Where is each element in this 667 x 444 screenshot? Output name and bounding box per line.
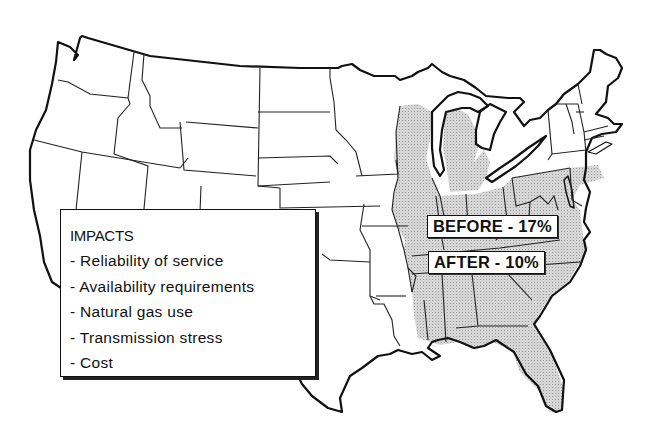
impact-item-reliability: - Reliability of service — [70, 248, 315, 274]
impact-item-cost: - Cost — [70, 350, 315, 376]
impacts-legend-box: IMPACTS - Reliability of service - Avail… — [60, 209, 316, 377]
impact-item-transmission: - Transmission stress — [70, 325, 315, 351]
impact-item-natural-gas: - Natural gas use — [70, 299, 315, 325]
impact-item-availability: - Availability requirements — [70, 274, 315, 300]
before-percentage-label: BEFORE - 17% — [427, 215, 558, 238]
after-percentage-label: AFTER - 10% — [428, 251, 545, 274]
impacts-title: IMPACTS — [70, 223, 315, 248]
